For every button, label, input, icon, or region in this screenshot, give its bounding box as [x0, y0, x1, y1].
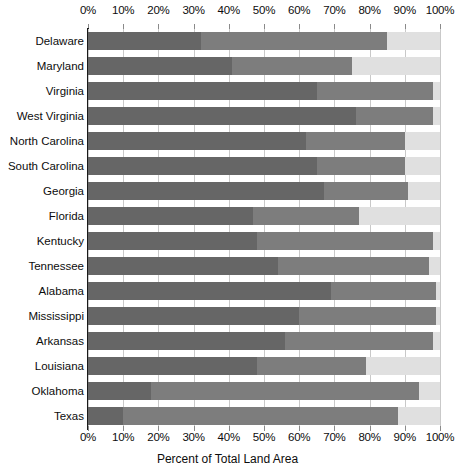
bar-row: [88, 57, 440, 75]
bar-segment-2: [201, 32, 388, 50]
bar-segment-1: [88, 157, 317, 175]
bar-segment-1: [88, 282, 331, 300]
x-tick-label-40pct: 40%: [218, 431, 240, 443]
bar-segment-2: [232, 57, 352, 75]
bar-segment-1: [88, 382, 151, 400]
x-tick-label-0pct: 0%: [80, 4, 96, 16]
bar-segment-3: [359, 207, 440, 225]
x-tick-label-20pct: 20%: [147, 4, 169, 16]
bar-segment-2: [356, 107, 433, 125]
bar-row: [88, 357, 440, 375]
bar-segment-3: [405, 132, 440, 150]
x-tick-label-100pct: 100%: [426, 4, 455, 16]
category-label: Kentucky: [0, 232, 84, 250]
bar-row: [88, 307, 440, 325]
category-label: Virginia: [0, 82, 84, 100]
bar-segment-3: [419, 382, 440, 400]
x-tick-label-60pct: 60%: [288, 4, 310, 16]
bar-segment-2: [317, 157, 405, 175]
category-label: Maryland: [0, 57, 84, 75]
category-label: Georgia: [0, 182, 84, 200]
bar-segment-2: [331, 282, 437, 300]
gridline: [440, 29, 441, 429]
plot-area: [88, 29, 440, 429]
category-label: Louisiana: [0, 357, 84, 375]
bar-row: [88, 182, 440, 200]
stacked-bar-chart: 0%10%20%30%40%50%60%70%80%90%100% Delawa…: [0, 0, 455, 472]
x-tick-label-10pct: 10%: [112, 431, 134, 443]
x-tick-label-0pct: 0%: [80, 431, 96, 443]
bar-segment-1: [88, 182, 324, 200]
category-label: Mississippi: [0, 307, 84, 325]
x-tick-label-40pct: 40%: [218, 4, 240, 16]
x-tick-label-90pct: 90%: [394, 431, 416, 443]
x-axis-bottom-tick-labels: 0%10%20%30%40%50%60%70%80%90%100%: [88, 431, 440, 453]
y-axis-category-labels: DelawareMarylandVirginiaWest VirginiaNor…: [0, 29, 84, 429]
bar-segment-1: [88, 82, 317, 100]
bar-row: [88, 382, 440, 400]
bar-segment-3: [387, 32, 440, 50]
bar-segment-2: [257, 232, 433, 250]
bar-segment-2: [306, 132, 405, 150]
category-label: Tennessee: [0, 257, 84, 275]
x-tick-label-30pct: 30%: [182, 4, 204, 16]
bar-segment-3: [433, 82, 440, 100]
x-tick-label-80pct: 80%: [358, 431, 380, 443]
category-label: South Carolina: [0, 157, 84, 175]
x-tick-label-70pct: 70%: [323, 4, 345, 16]
bar-segment-1: [88, 57, 232, 75]
bar-segment-3: [433, 332, 440, 350]
x-tick-label-90pct: 90%: [394, 4, 416, 16]
bar-row: [88, 157, 440, 175]
x-tick-label-30pct: 30%: [182, 431, 204, 443]
bar-row: [88, 207, 440, 225]
bar-segment-3: [433, 232, 440, 250]
bar-segment-2: [278, 257, 429, 275]
x-tick-label-80pct: 80%: [358, 4, 380, 16]
x-tick-label-20pct: 20%: [147, 431, 169, 443]
x-tick-label-10pct: 10%: [112, 4, 134, 16]
bar-segment-3: [408, 182, 440, 200]
category-label: West Virginia: [0, 107, 84, 125]
bar-segment-3: [436, 282, 440, 300]
bar-segment-1: [88, 257, 278, 275]
bar-row: [88, 82, 440, 100]
x-axis-title: Percent of Total Land Area: [0, 452, 455, 466]
bar-segment-3: [366, 357, 440, 375]
bar-segment-3: [433, 107, 440, 125]
bar-segment-1: [88, 232, 257, 250]
x-tick-label-70pct: 70%: [323, 431, 345, 443]
bar-segment-1: [88, 307, 299, 325]
bar-row: [88, 407, 440, 425]
bar-segment-3: [352, 57, 440, 75]
x-tick-label-100pct: 100%: [426, 431, 455, 443]
bar-row: [88, 107, 440, 125]
bar-segment-3: [398, 407, 440, 425]
x-tick-label-50pct: 50%: [253, 431, 275, 443]
category-label: Texas: [0, 407, 84, 425]
bar-segment-3: [436, 307, 440, 325]
bar-segment-1: [88, 32, 201, 50]
bar-segment-1: [88, 107, 356, 125]
bar-segment-2: [257, 357, 366, 375]
category-label: Oklahoma: [0, 382, 84, 400]
category-label: Alabama: [0, 282, 84, 300]
bar-segment-2: [299, 307, 436, 325]
bar-segment-1: [88, 357, 257, 375]
bar-segment-1: [88, 332, 285, 350]
bar-segment-1: [88, 207, 253, 225]
bar-row: [88, 257, 440, 275]
category-label: Delaware: [0, 32, 84, 50]
category-label: North Carolina: [0, 132, 84, 150]
bar-segment-2: [317, 82, 433, 100]
bar-segment-3: [405, 157, 440, 175]
bar-segment-3: [429, 257, 440, 275]
category-label: Florida: [0, 207, 84, 225]
bar-segment-2: [123, 407, 398, 425]
bar-segment-1: [88, 407, 123, 425]
bar-row: [88, 232, 440, 250]
x-tick-label-60pct: 60%: [288, 431, 310, 443]
bar-row: [88, 132, 440, 150]
category-label: Arkansas: [0, 332, 84, 350]
bar-segment-1: [88, 132, 306, 150]
